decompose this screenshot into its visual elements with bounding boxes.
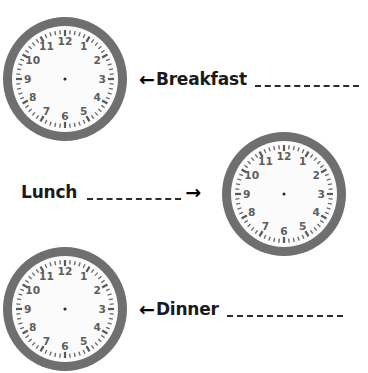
clock-numeral-11: 11 — [258, 155, 273, 168]
clock-numeral-10: 10 — [25, 284, 40, 297]
clock-numeral-6: 6 — [61, 340, 68, 353]
clock-numeral-7: 7 — [262, 220, 269, 233]
clock-numeral-5: 5 — [299, 220, 306, 233]
clock-face-breakfast[interactable]: 121234567891011 — [3, 17, 127, 141]
clock-numeral-1: 1 — [299, 155, 306, 168]
clock-numeral-10: 10 — [244, 169, 259, 182]
clock-face-lunch[interactable]: 121234567891011 — [222, 132, 346, 256]
clock-numeral-9: 9 — [24, 303, 31, 316]
clock-numeral-3: 3 — [317, 188, 324, 201]
clock-numeral-5: 5 — [80, 105, 87, 118]
answer-blank-lunch[interactable] — [87, 198, 181, 200]
clock-numeral-12: 12 — [58, 35, 73, 48]
clock-numeral-9: 9 — [243, 188, 250, 201]
meal-row-breakfast: ← Breakfast — [139, 70, 359, 89]
clock-numeral-3: 3 — [98, 303, 105, 316]
clock-numeral-11: 11 — [39, 270, 54, 283]
clock-face-dinner[interactable]: 121234567891011 — [3, 247, 127, 371]
clock-dial: 121234567891011 — [222, 132, 346, 256]
clock-dial: 121234567891011 — [3, 17, 127, 141]
meal-row-dinner: ← Dinner — [139, 300, 343, 319]
clock-numeral-7: 7 — [43, 335, 50, 348]
clock-numeral-4: 4 — [94, 321, 101, 334]
clock-numeral-3: 3 — [98, 73, 105, 86]
clock-numeral-5: 5 — [80, 335, 87, 348]
worksheet-page: 121234567891011 121234567891011 12123456… — [0, 0, 368, 373]
meal-row-lunch: Lunch → — [21, 183, 201, 202]
clock-numeral-2: 2 — [94, 54, 101, 67]
clock-numeral-12: 12 — [277, 150, 292, 163]
arrow-left-icon: ← — [139, 300, 155, 319]
answer-blank-dinner[interactable] — [227, 315, 343, 317]
clock-numeral-4: 4 — [313, 206, 320, 219]
clock-numeral-6: 6 — [61, 110, 68, 123]
clock-numeral-8: 8 — [29, 321, 36, 334]
clock-numeral-11: 11 — [39, 40, 54, 53]
clock-center-dot — [63, 307, 66, 310]
clock-numeral-2: 2 — [94, 284, 101, 297]
meal-label-breakfast: Breakfast — [156, 71, 247, 88]
clock-numeral-4: 4 — [94, 91, 101, 104]
clock-numeral-1: 1 — [80, 270, 87, 283]
meal-label-dinner: Dinner — [156, 301, 219, 318]
answer-blank-breakfast[interactable] — [255, 85, 359, 87]
clock-dial: 121234567891011 — [3, 247, 127, 371]
clock-numeral-12: 12 — [58, 265, 73, 278]
clock-numeral-1: 1 — [80, 40, 87, 53]
arrow-right-icon: → — [185, 183, 201, 202]
clock-numeral-8: 8 — [248, 206, 255, 219]
clock-numeral-9: 9 — [24, 73, 31, 86]
arrow-left-icon: ← — [139, 70, 155, 89]
clock-numeral-6: 6 — [280, 225, 287, 238]
clock-numeral-7: 7 — [43, 105, 50, 118]
meal-label-lunch: Lunch — [21, 184, 77, 201]
clock-center-dot — [63, 77, 66, 80]
clock-numeral-2: 2 — [313, 169, 320, 182]
clock-numeral-8: 8 — [29, 91, 36, 104]
clock-center-dot — [282, 192, 285, 195]
clock-numeral-10: 10 — [25, 54, 40, 67]
